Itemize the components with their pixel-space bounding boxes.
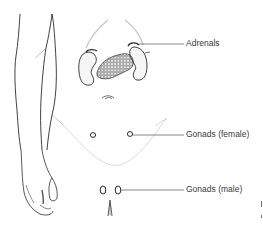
- rib-arcs: [86, 20, 143, 48]
- navel: [102, 96, 114, 99]
- hand-outline: [21, 150, 57, 215]
- pelvis-outline: [62, 118, 167, 165]
- gonads-male-label: Gonads (male): [186, 185, 242, 194]
- left-kidney: [79, 50, 97, 86]
- arm-outline: [15, 14, 64, 150]
- dotted-organ: [97, 54, 133, 79]
- page-edge-mark: [261, 215, 262, 218]
- male-gonads: [100, 186, 121, 194]
- adrenals-label: Adrenals: [186, 39, 220, 48]
- female-gonads: [90, 132, 132, 138]
- endocrine-diagram: Adrenals Gonads (female) Gonads (male): [0, 0, 263, 239]
- midline-mark: [108, 200, 112, 216]
- anatomy-illustration: [0, 0, 263, 239]
- gonads-female-label: Gonads (female): [186, 130, 249, 139]
- page-edge-mark: [261, 201, 262, 207]
